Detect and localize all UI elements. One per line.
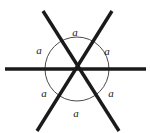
diagonal-line-nw-se	[43, 11, 119, 131]
angle-label-top: a	[72, 27, 78, 38]
angle-label-upper-right: a	[104, 46, 110, 57]
angle-label-bottom: a	[73, 108, 79, 119]
angle-label-lower-right: a	[108, 88, 114, 99]
angle-label-upper-left: a	[36, 45, 42, 56]
geometry-figure: a a a a a a	[0, 0, 150, 133]
angle-label-lower-left: a	[41, 88, 47, 99]
